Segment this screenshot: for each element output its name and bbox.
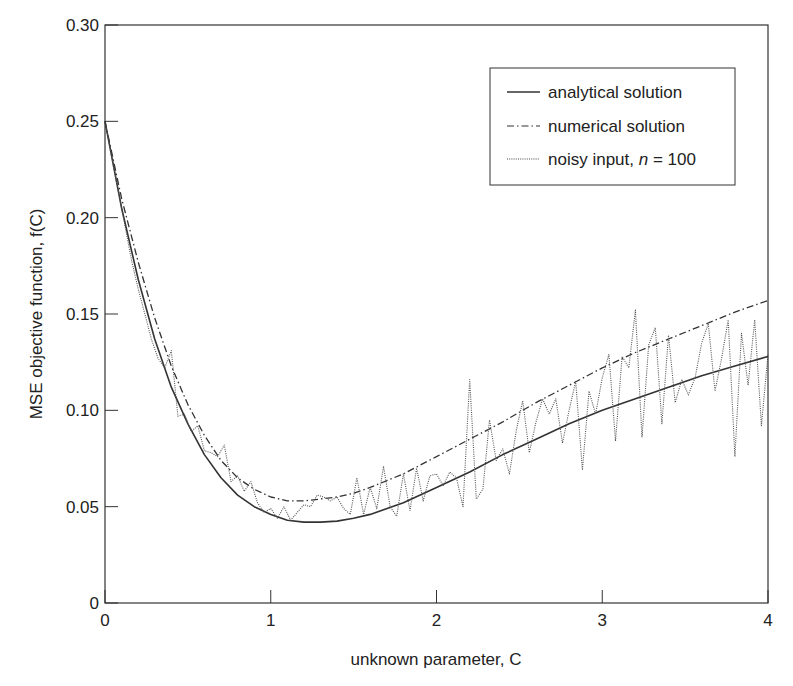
y-axis-label: MSE objective function, f(C) bbox=[27, 209, 46, 420]
y-tick-label: 0.05 bbox=[66, 498, 99, 517]
legend: analytical solution numerical solution n… bbox=[490, 68, 735, 185]
y-tick-label: 0.20 bbox=[66, 209, 99, 228]
y-tick-label: 0.30 bbox=[66, 16, 99, 35]
legend-label-numerical: numerical solution bbox=[548, 117, 685, 136]
legend-label-analytical: analytical solution bbox=[548, 83, 682, 102]
x-tick-label: 3 bbox=[598, 611, 607, 630]
legend-label-noisy: noisy input, n = 100 bbox=[548, 150, 696, 169]
y-tick-label: 0 bbox=[90, 594, 99, 613]
y-tick-label: 0.15 bbox=[66, 305, 99, 324]
y-tick-label: 0.25 bbox=[66, 112, 99, 131]
y-tick-label: 0.10 bbox=[66, 401, 99, 420]
x-tick-label: 1 bbox=[266, 611, 275, 630]
x-tick-label: 2 bbox=[432, 611, 441, 630]
x-tick-label: 0 bbox=[100, 611, 109, 630]
chart-svg: 0123400.050.100.150.200.250.30 unknown p… bbox=[0, 0, 793, 686]
x-axis-label: unknown parameter, C bbox=[350, 650, 521, 669]
x-tick-label: 4 bbox=[763, 611, 772, 630]
